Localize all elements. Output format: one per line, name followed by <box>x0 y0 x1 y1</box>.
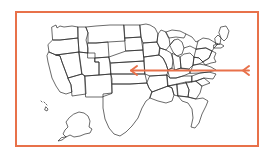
state-south-dakota <box>125 37 143 51</box>
state-new-mexico <box>85 74 112 97</box>
state-colorado <box>95 57 111 75</box>
state-iowa <box>143 42 160 57</box>
state-hawaii-bigisland <box>45 107 48 111</box>
state-south-carolina <box>196 78 210 86</box>
state-hawaii-oahu <box>44 102 45 103</box>
state-minnesota <box>140 24 158 43</box>
state-washington <box>52 25 78 40</box>
state-alaska-aleutians <box>58 137 66 141</box>
state-north-dakota <box>124 25 141 38</box>
state-texas <box>103 83 152 136</box>
state-wisconsin <box>157 30 170 50</box>
state-maine <box>219 26 229 41</box>
state-nevada <box>56 52 82 78</box>
state-virginia <box>190 64 216 73</box>
state-pennsylvania <box>194 48 212 62</box>
state-wyoming <box>88 42 109 58</box>
state-kansas <box>111 61 145 74</box>
state-missouri <box>144 55 168 76</box>
state-hawaii-kauai <box>41 101 42 102</box>
state-california <box>47 52 72 94</box>
state-indiana <box>172 53 181 70</box>
horizontal-arrow-annotation <box>131 66 249 75</box>
state-west-virginia <box>193 57 203 65</box>
us-map-svg <box>0 0 277 161</box>
figure-canvas <box>0 0 277 161</box>
state-louisiana <box>150 86 174 103</box>
state-illinois <box>159 48 173 70</box>
state-oklahoma <box>111 74 147 84</box>
state-new-york <box>196 38 218 51</box>
state-utah <box>79 52 99 76</box>
state-alaska <box>63 112 92 137</box>
map-container <box>0 0 277 161</box>
state-hawaii-maui <box>46 104 47 105</box>
state-ohio <box>180 53 194 69</box>
great-lakes-boundary-1 <box>170 40 174 45</box>
great-lakes-boundary-2 <box>184 46 196 49</box>
state-idaho <box>78 27 88 53</box>
state-florida <box>178 96 208 128</box>
great-lakes-boundary-3 <box>186 34 198 42</box>
state-tennessee <box>167 75 192 86</box>
state-mississippi <box>168 84 178 96</box>
state-arkansas <box>147 75 168 92</box>
us-state-outlines <box>41 24 229 141</box>
state-montana <box>86 25 125 43</box>
state-new-jersey-maryland-delaware <box>203 51 216 65</box>
state-north-carolina <box>192 72 216 82</box>
state-massachusetts-connecticut <box>214 44 224 48</box>
state-michigan-upper <box>166 30 186 38</box>
